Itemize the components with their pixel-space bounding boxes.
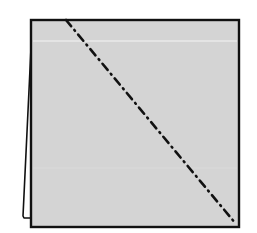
paper-square [31, 20, 239, 227]
origami-diagram [0, 0, 257, 233]
